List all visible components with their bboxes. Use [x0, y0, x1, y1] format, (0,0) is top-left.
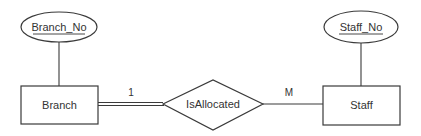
attribute-branch-no[interactable]: Branch_No: [21, 12, 97, 42]
relationship-isallocated[interactable]: IsAllocated: [163, 80, 263, 130]
attribute-label-branch-no: Branch_No: [31, 21, 86, 33]
entity-branch[interactable]: Branch: [21, 86, 98, 124]
relationship-label: IsAllocated: [186, 98, 240, 110]
attribute-label-staff-no: Staff_No: [340, 21, 383, 33]
branch-relationship-double-line: [98, 103, 164, 106]
attribute-staff-no[interactable]: Staff_No: [324, 11, 398, 43]
entity-label-branch: Branch: [42, 99, 77, 111]
entity-staff[interactable]: Staff: [323, 86, 400, 125]
cardinality-branch: 1: [128, 87, 134, 98]
er-diagram-canvas: Branch_No Staff_No Branch Staff IsAlloca…: [0, 0, 421, 136]
entity-label-staff: Staff: [350, 99, 373, 111]
cardinality-staff: M: [285, 87, 293, 98]
